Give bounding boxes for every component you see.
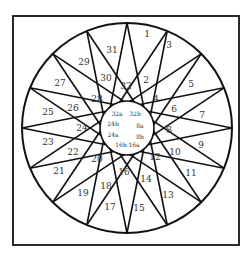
arm-label: 4	[153, 94, 159, 104]
center-label: 24a	[107, 131, 119, 138]
segment-label: 19	[77, 188, 89, 198]
segment-label: 29	[78, 57, 90, 67]
arm-label: 16	[118, 167, 130, 177]
segment-label: 9	[198, 140, 204, 150]
segment-label: 5	[188, 79, 194, 89]
segment-label: 31	[106, 45, 117, 55]
center-label: 32b	[129, 110, 141, 117]
arm-label: 2	[143, 75, 149, 85]
center-label: 32a	[111, 110, 123, 117]
center-label: 8b	[136, 133, 144, 140]
arm-label: 18	[100, 181, 112, 191]
segment-label: 11	[185, 168, 196, 178]
segment-label: 13	[162, 190, 174, 200]
arm-label: 10	[169, 147, 181, 157]
arm-label: 14	[140, 174, 152, 184]
arm-label: 20	[91, 154, 103, 164]
arm-label: 6	[171, 104, 177, 114]
center-label: 24b	[107, 120, 119, 127]
center-label: 16b	[115, 141, 127, 148]
arm-label: 32	[120, 81, 131, 91]
segment-label: 17	[104, 202, 116, 212]
arm-label: 8	[166, 125, 172, 135]
inner-circle	[100, 101, 154, 155]
segment-label: 25	[42, 107, 54, 117]
star-quilt-diagram: 135791113151719212325272931 246810121416…	[0, 0, 250, 256]
arm-label: 30	[100, 73, 112, 83]
segment-label: 7	[199, 110, 205, 120]
arm-label: 22	[67, 147, 78, 157]
segment-label: 23	[42, 137, 54, 147]
segment-label: 27	[54, 78, 66, 88]
arm-label: 24	[76, 123, 88, 133]
center-label: 8a	[136, 122, 144, 129]
arm-label: 28	[91, 94, 103, 104]
arm-label: 12	[149, 152, 160, 162]
segment-label: 15	[133, 203, 145, 213]
segment-label: 3	[166, 40, 172, 50]
segment-label: 21	[53, 166, 64, 176]
center-label: 16a	[128, 141, 140, 148]
segment-label: 1	[144, 29, 150, 39]
arm-label: 26	[67, 103, 79, 113]
